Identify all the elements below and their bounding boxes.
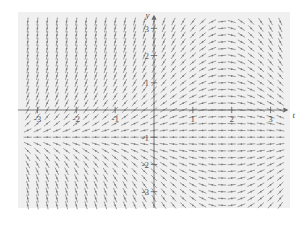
slope-mark-point [270, 96, 272, 98]
slope-mark-point [27, 143, 29, 145]
slope-mark-point [192, 21, 194, 23]
slope-mark-point [105, 198, 107, 200]
slope-mark-point [105, 62, 107, 64]
slope-mark-point [192, 184, 194, 186]
slope-mark-point [163, 55, 165, 57]
slope-mark-point [163, 184, 165, 186]
slope-mark-point [241, 62, 243, 64]
slope-mark-point [37, 82, 39, 84]
slope-mark-point [27, 68, 29, 70]
slope-mark-point [66, 34, 68, 36]
slope-mark-point [37, 41, 39, 43]
slope-mark-point [105, 123, 107, 125]
slope-mark-point [260, 89, 262, 91]
slope-mark-point [143, 102, 145, 104]
slope-mark-point [46, 89, 48, 91]
slope-mark-point [124, 62, 126, 64]
slope-mark-point [134, 150, 136, 152]
slope-mark-point [192, 150, 194, 152]
slope-mark-point [95, 150, 97, 152]
slope-mark-point [182, 34, 184, 36]
slope-mark-point [27, 34, 29, 36]
slope-mark-point [37, 68, 39, 70]
x-tick-label: -2 [73, 114, 81, 124]
slope-mark-point [173, 34, 175, 36]
slope-mark-point [231, 164, 233, 166]
slope-mark-point [241, 75, 243, 77]
slope-mark-point [95, 164, 97, 166]
slope-mark-point [231, 157, 233, 159]
slope-mark-point [95, 68, 97, 70]
slope-mark-point [202, 82, 204, 84]
slope-mark-point [250, 27, 252, 29]
slope-mark-point [192, 136, 194, 138]
slope-mark-point [114, 89, 116, 91]
slope-mark-point [85, 82, 87, 84]
slope-mark-point [124, 123, 126, 125]
slope-mark-point [270, 191, 272, 193]
slope-mark-point [75, 150, 77, 152]
slope-mark-point [260, 96, 262, 98]
slope-mark-point [211, 34, 213, 36]
slope-mark-point [173, 82, 175, 84]
slope-mark-point [231, 198, 233, 200]
slope-mark-point [56, 34, 58, 36]
slope-mark-point [37, 184, 39, 186]
slope-mark-point [221, 116, 223, 118]
slope-mark-point [231, 143, 233, 145]
slope-mark-point [241, 41, 243, 43]
slope-mark-point [66, 82, 68, 84]
slope-mark-point [66, 123, 68, 125]
slope-mark-point [66, 102, 68, 104]
slope-mark-point [241, 96, 243, 98]
slope-mark-point [270, 157, 272, 159]
slope-mark-point [27, 191, 29, 193]
slope-mark-point [66, 89, 68, 91]
slope-mark-point [124, 130, 126, 132]
slope-mark-point [143, 123, 145, 125]
slope-mark-point [134, 41, 136, 43]
slope-mark-point [66, 164, 68, 166]
slope-mark-point [75, 96, 77, 98]
slope-mark-point [105, 96, 107, 98]
slope-mark-point [27, 204, 29, 206]
slope-mark-point [46, 177, 48, 179]
y-tick-label: 3 [145, 24, 150, 34]
slope-mark-point [85, 150, 87, 152]
slope-mark-point [124, 89, 126, 91]
slope-mark-point [163, 191, 165, 193]
slope-mark-point [105, 102, 107, 104]
slope-mark-point [66, 48, 68, 50]
slope-mark-point [66, 75, 68, 77]
slope-mark-point [202, 68, 204, 70]
slope-mark-point [143, 89, 145, 91]
slope-mark-point [46, 143, 48, 145]
slope-mark-point [66, 116, 68, 118]
slope-mark-point [163, 143, 165, 145]
slope-mark-point [114, 130, 116, 132]
slope-mark-point [241, 48, 243, 50]
slope-mark-point [95, 116, 97, 118]
slope-mark-point [192, 27, 194, 29]
slope-mark-point [37, 89, 39, 91]
slope-mark-point [95, 170, 97, 172]
slope-mark-point [270, 89, 272, 91]
slope-mark-point [250, 116, 252, 118]
slope-mark-point [46, 96, 48, 98]
slope-mark-point [66, 170, 68, 172]
slope-mark-point [95, 184, 97, 186]
slope-mark-point [270, 204, 272, 206]
slope-mark-point [221, 96, 223, 98]
slope-mark-point [27, 184, 29, 186]
slope-mark-point [163, 82, 165, 84]
slope-mark-point [46, 184, 48, 186]
slope-mark-point [134, 82, 136, 84]
slope-mark-point [114, 41, 116, 43]
slope-mark-point [211, 177, 213, 179]
slope-mark-point [85, 157, 87, 159]
slope-mark-point [260, 55, 262, 57]
slope-mark-point [27, 177, 29, 179]
y-tick-label: -3 [142, 187, 150, 197]
slope-mark-point [173, 102, 175, 104]
slope-mark-point [260, 48, 262, 50]
